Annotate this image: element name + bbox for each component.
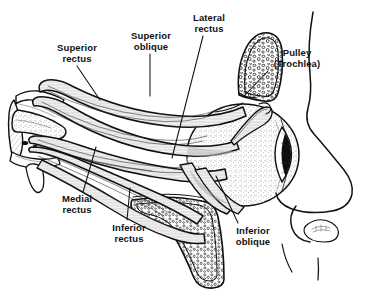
label-medial-rectus: Medial rectus xyxy=(48,193,106,215)
label-inferior-rectus-line1: Inferior xyxy=(100,222,158,233)
label-superior-rectus-line1: Superior xyxy=(46,42,108,53)
label-superior-oblique-line1: Superior xyxy=(120,30,182,41)
label-lateral-rectus-line2: rectus xyxy=(180,23,238,34)
label-lateral-rectus-line1: Lateral xyxy=(180,12,238,23)
label-inferior-oblique-line2: oblique xyxy=(222,236,284,247)
label-superior-rectus-line2: rectus xyxy=(46,53,108,64)
label-inferior-rectus-line2: rectus xyxy=(100,233,158,244)
label-inferior-oblique: Inferior oblique xyxy=(222,225,284,247)
label-medial-rectus-line2: rectus xyxy=(48,204,106,215)
label-lateral-rectus: Lateral rectus xyxy=(180,12,238,34)
label-inferior-oblique-line1: Inferior xyxy=(222,225,284,236)
label-pulley-trochlea-line1: Pulley xyxy=(262,47,332,58)
label-pulley-trochlea-line2: (Trochlea) xyxy=(262,58,332,69)
label-pulley-trochlea: Pulley (Trochlea) xyxy=(262,47,332,69)
label-superior-oblique: Superior oblique xyxy=(120,30,182,52)
label-inferior-rectus: Inferior rectus xyxy=(100,222,158,244)
anatomy-figure: Superior rectus Superior oblique Lateral… xyxy=(0,0,383,293)
label-superior-oblique-line2: oblique xyxy=(120,41,182,52)
label-medial-rectus-line1: Medial xyxy=(48,193,106,204)
label-superior-rectus: Superior rectus xyxy=(46,42,108,64)
